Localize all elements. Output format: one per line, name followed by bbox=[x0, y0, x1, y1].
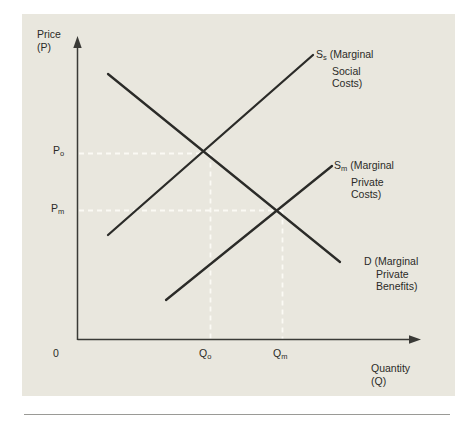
y-axis-title-line1: Price bbox=[37, 28, 61, 40]
quantity-tick-qo: Qo bbox=[199, 347, 211, 364]
quantity-tick-qm-symbol: Q bbox=[273, 347, 281, 359]
curve-label-demand-line1: (Marginal bbox=[375, 255, 419, 267]
price-tick-pm-subscript: m bbox=[58, 207, 64, 216]
curve-label-social-supply-line2: Social bbox=[332, 65, 361, 78]
curve-label-demand-line2: Private bbox=[376, 268, 409, 281]
chart-panel bbox=[22, 14, 455, 396]
footer-divider bbox=[24, 414, 450, 415]
quantity-tick-qm-subscript: m bbox=[281, 352, 287, 361]
quantity-tick-qo-subscript: o bbox=[207, 352, 211, 361]
curve-label-private-supply-line3: Costs) bbox=[351, 188, 381, 201]
y-axis-title-line2: (P) bbox=[37, 41, 51, 53]
x-axis-title-line2: (Q) bbox=[371, 375, 386, 387]
price-tick-pm: Pm bbox=[51, 202, 64, 219]
curve-label-demand: D (MarginalPrivateBenefits) bbox=[364, 255, 418, 293]
curve-label-social-supply: Ss (MarginalSocialCosts) bbox=[316, 48, 373, 90]
origin-label: 0 bbox=[53, 347, 59, 360]
curve-label-private-supply-symbol: S bbox=[334, 159, 341, 171]
price-tick-po: Po bbox=[53, 144, 64, 161]
curve-label-private-supply-line1: (Marginal bbox=[350, 159, 394, 171]
price-tick-po-subscript: o bbox=[60, 149, 64, 158]
curve-label-social-supply-line1: (Marginal bbox=[330, 48, 374, 60]
curve-label-social-supply-line3: Costs) bbox=[332, 77, 362, 90]
quantity-tick-qm: Qm bbox=[273, 347, 287, 364]
curve-label-social-supply-symbol: S bbox=[316, 48, 323, 60]
x-axis-title: Quantity(Q) bbox=[371, 362, 410, 387]
quantity-tick-qo-symbol: Q bbox=[199, 347, 207, 359]
curve-label-private-supply-line2: Private bbox=[351, 176, 384, 189]
x-axis-title-line1: Quantity bbox=[371, 362, 410, 374]
curve-label-demand-line3: Benefits) bbox=[376, 280, 417, 293]
curve-label-private-supply: Sm (MarginalPrivateCosts) bbox=[334, 159, 394, 201]
curve-label-demand-symbol: D bbox=[364, 255, 372, 267]
price-tick-po-symbol: P bbox=[53, 144, 60, 156]
y-axis-title: Price(P) bbox=[37, 28, 61, 53]
price-tick-pm-symbol: P bbox=[51, 202, 58, 214]
